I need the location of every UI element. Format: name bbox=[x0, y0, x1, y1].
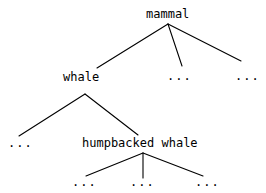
edge-humpbacked-to-ellipsis-left bbox=[86, 153, 143, 176]
node-ellipsis-level4-left: ... bbox=[72, 176, 97, 189]
taxonomy-tree-diagram: mammal whale ... ... ... humpbacked whal… bbox=[0, 0, 266, 193]
edge-humpbacked-to-ellipsis-right bbox=[143, 153, 203, 176]
node-ellipsis-level4-right: ... bbox=[195, 176, 220, 189]
edge-mammal-to-whale bbox=[97, 24, 168, 68]
node-ellipsis-level3-left: ... bbox=[8, 137, 33, 150]
node-ellipsis-level2-middle: ... bbox=[167, 70, 192, 83]
node-mammal: mammal bbox=[146, 8, 189, 21]
node-whale: whale bbox=[63, 71, 99, 84]
edge-whale-to-ellipsis-left bbox=[19, 94, 85, 136]
edge-whale-to-humpbacked-whale bbox=[85, 94, 138, 135]
tree-edges-layer bbox=[0, 0, 266, 193]
node-humpbacked-whale: humpbacked whale bbox=[82, 137, 198, 150]
node-ellipsis-level4-middle: ... bbox=[130, 176, 155, 189]
node-ellipsis-level2-right: ... bbox=[235, 70, 260, 83]
